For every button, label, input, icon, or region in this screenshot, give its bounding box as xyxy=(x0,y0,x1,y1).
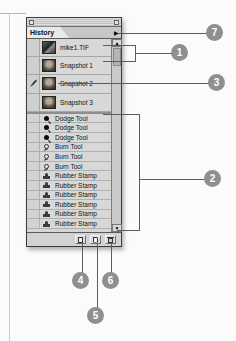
delete-state-button[interactable] xyxy=(105,235,116,244)
dodge-tool-icon xyxy=(44,125,49,130)
history-state-row[interactable]: Burn Tool xyxy=(27,162,111,172)
source-well[interactable] xyxy=(27,162,40,171)
dodge-tool-icon xyxy=(44,116,49,121)
state-label: Dodge Tool xyxy=(55,124,88,131)
callout-bracket-2-edge xyxy=(139,114,140,231)
source-well[interactable] xyxy=(27,39,40,56)
callout-2: 2 xyxy=(204,170,221,187)
snapshot-thumbnail xyxy=(42,96,56,109)
rubber-stamp-icon xyxy=(43,204,50,207)
page-rule-horizontal xyxy=(0,13,26,14)
scrollbar[interactable]: ▲ ▼ xyxy=(111,39,121,232)
state-label: Dodge Tool xyxy=(55,134,88,141)
list-item-snapshot[interactable]: Snapshot 2 xyxy=(27,75,111,93)
history-state-row[interactable]: Rubber Stamp xyxy=(27,210,111,220)
source-well[interactable] xyxy=(27,152,40,161)
state-label: Rubber Stamp xyxy=(55,172,97,179)
state-label: Burn Tool xyxy=(55,153,82,160)
callout-line-3 xyxy=(58,83,209,84)
history-state-row[interactable]: Burn Tool xyxy=(27,143,111,153)
new-document-button[interactable] xyxy=(75,235,86,244)
callout-6: 6 xyxy=(102,272,119,289)
item-label: Snapshot 1 xyxy=(60,62,93,69)
list-item-snapshot[interactable]: Snapshot 1 xyxy=(27,57,111,75)
snapshot-thumbnail xyxy=(42,59,56,72)
state-label: Burn Tool xyxy=(55,143,82,150)
callout-line-7 xyxy=(118,33,207,34)
item-label: mike1.TIF xyxy=(60,44,89,51)
source-well[interactable] xyxy=(27,181,40,190)
list-item-file[interactable]: mike1.TIF xyxy=(27,39,111,57)
source-well[interactable] xyxy=(27,57,40,74)
history-state-row[interactable]: Rubber Stamp xyxy=(27,219,111,229)
close-box-icon[interactable] xyxy=(29,20,34,25)
new-snapshot-button[interactable] xyxy=(90,235,101,244)
source-well[interactable] xyxy=(27,114,40,123)
source-well[interactable] xyxy=(27,133,40,142)
callout-line-2 xyxy=(139,179,205,180)
item-label: Snapshot 3 xyxy=(60,99,93,106)
burn-tool-icon xyxy=(44,154,49,159)
history-state-row[interactable]: Dodge Tool xyxy=(27,123,111,133)
trash-icon xyxy=(108,238,113,243)
callout-line-6 xyxy=(111,244,112,273)
list-item-snapshot[interactable]: Snapshot 3 xyxy=(27,94,111,112)
callout-5: 5 xyxy=(87,307,104,324)
source-well[interactable] xyxy=(27,94,40,111)
source-well[interactable] xyxy=(27,171,40,180)
callout-line-1 xyxy=(135,53,172,54)
rubber-stamp-icon xyxy=(43,214,50,217)
source-well[interactable] xyxy=(27,219,40,228)
snapshot-thumbnail xyxy=(42,77,56,90)
callout-bracket-2-bottom xyxy=(117,230,140,231)
callout-bracket-1-top xyxy=(103,45,136,46)
history-state-row[interactable]: Burn Tool xyxy=(27,152,111,162)
callout-bracket-1-bottom xyxy=(103,61,136,62)
source-well[interactable] xyxy=(27,200,40,209)
burn-tool-icon xyxy=(44,144,49,149)
state-label: Dodge Tool xyxy=(55,115,88,122)
state-label: Rubber Stamp xyxy=(55,210,97,217)
history-state-row[interactable]: Rubber Stamp xyxy=(27,200,111,210)
history-state-row[interactable]: Dodge Tool xyxy=(27,114,111,124)
rubber-stamp-icon xyxy=(43,176,50,179)
palette-button-bar xyxy=(27,232,121,246)
state-label: Rubber Stamp xyxy=(55,182,97,189)
history-list: mike1.TIF Snapshot 1 Snapshot 2 Snapshot… xyxy=(27,39,121,232)
history-state-row[interactable]: Rubber Stamp xyxy=(27,191,111,201)
callout-line-5 xyxy=(97,244,98,308)
tab-history[interactable]: History xyxy=(27,26,69,38)
source-well[interactable] xyxy=(27,191,40,200)
callout-4: 4 xyxy=(72,272,89,289)
new-snapshot-icon xyxy=(93,237,98,243)
state-label: Rubber Stamp xyxy=(55,220,97,227)
history-state-row[interactable]: Rubber Stamp xyxy=(27,181,111,191)
callout-3: 3 xyxy=(208,74,225,91)
history-state-row[interactable]: Dodge Tool xyxy=(27,133,111,143)
history-palette-window: History ▶ mike1.TIF Snapshot 1 Snapshot … xyxy=(26,17,122,247)
callout-bracket-2-top xyxy=(103,114,140,115)
callout-line-4 xyxy=(82,244,83,273)
history-state-row[interactable]: Rubber Stamp xyxy=(27,171,111,181)
new-document-icon xyxy=(78,237,83,243)
source-well[interactable] xyxy=(27,123,40,132)
callout-1: 1 xyxy=(171,44,188,61)
scrollbar-thumb[interactable] xyxy=(113,48,121,66)
rubber-stamp-icon xyxy=(43,195,50,198)
rubber-stamp-icon xyxy=(43,185,50,188)
palette-tab-row: History ▶ xyxy=(27,27,121,39)
state-label: Rubber Stamp xyxy=(55,201,97,208)
page-rule-vertical xyxy=(9,14,10,341)
state-label: Burn Tool xyxy=(55,163,82,170)
history-brush-source-icon xyxy=(29,79,38,88)
image-thumbnail xyxy=(42,41,56,54)
source-well[interactable] xyxy=(27,210,40,219)
burn-tool-icon xyxy=(44,164,49,169)
collapse-box-icon[interactable] xyxy=(114,20,119,25)
source-well[interactable] xyxy=(27,75,40,92)
source-well[interactable] xyxy=(27,143,40,152)
palette-titlebar[interactable] xyxy=(27,18,121,27)
callout-7: 7 xyxy=(206,24,223,41)
state-label: Rubber Stamp xyxy=(55,191,97,198)
history-rows: mike1.TIF Snapshot 1 Snapshot 2 Snapshot… xyxy=(27,39,111,232)
